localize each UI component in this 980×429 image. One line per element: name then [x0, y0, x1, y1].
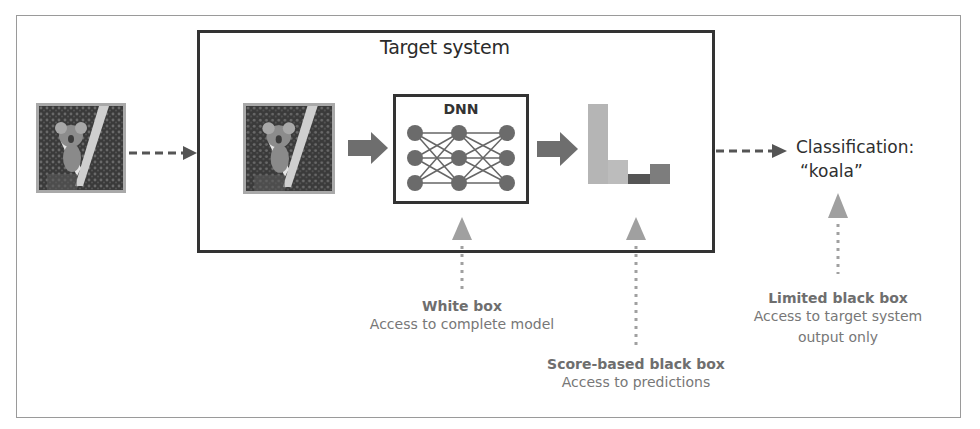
white-box-label-group: White box Access to complete model: [352, 298, 572, 335]
score-based-access-arrow: [626, 217, 646, 350]
white-box-access-arrow: [452, 217, 472, 293]
output-dashed-arrow: [716, 144, 787, 158]
classification-output: Classification: “koala”: [796, 135, 914, 183]
white-box-description: Access to complete model: [352, 314, 572, 335]
diagram-graphics: [0, 0, 980, 429]
block-arrow-to-predictions-icon: [537, 132, 578, 166]
limited-black-box-description-line1: Access to target system: [738, 306, 938, 327]
block-arrow-to-dnn-icon: [348, 132, 388, 164]
limited-black-box-title: Limited black box: [738, 290, 938, 306]
limited-black-box-description-line2: output only: [738, 327, 938, 348]
classification-label: Classification:: [796, 135, 914, 159]
score-based-label-group: Score-based black box Access to predicti…: [526, 356, 746, 393]
limited-black-box-access-arrow: [828, 193, 848, 274]
limited-black-box-label-group: Limited black box Access to target syste…: [738, 290, 938, 348]
input-dashed-arrow: [129, 146, 197, 160]
prediction-bar-chart-icon: [588, 104, 670, 184]
score-based-title: Score-based black box: [526, 356, 746, 372]
white-box-title: White box: [352, 298, 572, 314]
classification-value: “koala”: [796, 159, 914, 183]
score-based-description: Access to predictions: [526, 372, 746, 393]
